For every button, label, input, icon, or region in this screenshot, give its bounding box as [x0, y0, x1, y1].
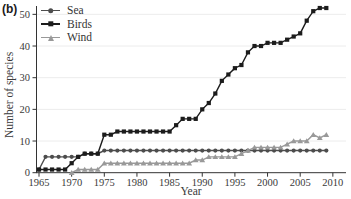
x-tick-label: 2010: [322, 177, 343, 188]
x-tick-label: 2005: [290, 177, 311, 188]
x-tick-label: 1980: [126, 177, 147, 188]
chart-legend: Sea Birds Wind: [41, 5, 92, 46]
y-tick-label: 20: [20, 104, 31, 115]
sea-line: [39, 151, 326, 170]
wind-line: [72, 135, 327, 173]
legend-label-wind: Wind: [67, 32, 92, 43]
triangle-marker-icon: [48, 35, 54, 41]
x-tick-label: 1985: [159, 177, 180, 188]
x-tick-label: 1970: [61, 177, 82, 188]
birds-line-swatch: [41, 19, 60, 30]
x-tick-label: 1965: [29, 177, 50, 188]
wind-line-swatch: [41, 32, 60, 43]
panel-label: (b): [2, 2, 17, 16]
legend-item-wind: Wind: [41, 32, 92, 43]
y-axis-title: Number of species: [3, 52, 15, 138]
y-tick-label: 30: [20, 72, 31, 83]
x-axis-title: Year: [180, 185, 201, 197]
x-tick-label: 1995: [224, 177, 245, 188]
sea-line-swatch: [41, 5, 60, 16]
square-marker-icon: [48, 21, 53, 26]
legend-label-birds: Birds: [67, 19, 92, 30]
sea-series: [37, 148, 329, 171]
y-tick-label: 50: [20, 9, 31, 20]
circle-marker-icon: [48, 8, 54, 14]
legend-label-sea: Sea: [67, 5, 84, 16]
x-tick-label: 1975: [94, 177, 115, 188]
y-tick-label: 10: [20, 136, 31, 147]
x-tick-label: 2000: [257, 177, 278, 188]
wind-series: [69, 132, 329, 175]
legend-item-birds: Birds: [41, 19, 92, 30]
figure-panel: 0102030405019651970197519801985199019952…: [0, 0, 351, 199]
y-tick-label: 40: [20, 41, 31, 52]
legend-item-sea: Sea: [41, 5, 92, 16]
